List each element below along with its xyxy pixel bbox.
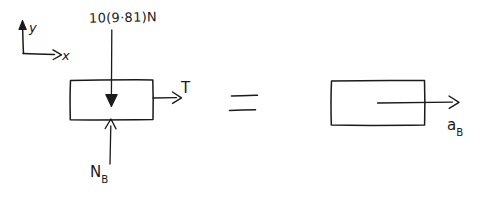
tension-force-arrow (153, 92, 182, 103)
equals-stroke-top (232, 95, 258, 96)
weight-force-label: 10(9·81)N (89, 9, 157, 25)
y-axis-arrowhead (19, 21, 26, 30)
acceleration-label-subscript: B (456, 127, 463, 138)
normal-force-label-subscript: B (101, 174, 108, 185)
figure-vector-layer (0, 0, 481, 206)
acceleration-label-main: a (447, 116, 456, 134)
y-axis-label: y (29, 20, 37, 35)
acceleration-arrow (378, 96, 460, 108)
coordinate-axes (19, 21, 62, 60)
normal-force-label-main: N (90, 163, 101, 181)
figure-canvas: 10(9·81)N y x T NB aB (0, 0, 481, 206)
acceleration-label: aB (447, 116, 463, 136)
equals-sign (230, 95, 258, 110)
equals-stroke-bottom (230, 110, 256, 111)
x-axis-shaft (23, 54, 55, 55)
weight-force-arrow (106, 30, 117, 107)
x-axis-label: x (62, 48, 70, 63)
acceleration-arrow-shaft (378, 102, 453, 103)
normal-force-arrow (105, 119, 116, 164)
normal-force-label: NB (90, 163, 108, 183)
normal-arrow-shaft (110, 126, 111, 164)
weight-arrowhead (106, 95, 117, 107)
tension-force-label: T (181, 79, 190, 97)
